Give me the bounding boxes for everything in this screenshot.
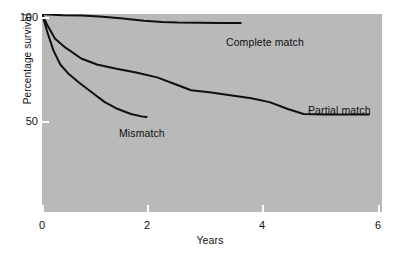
x-tick-mark-0 bbox=[42, 205, 44, 212]
y-tick-mark-100 bbox=[42, 17, 49, 19]
survival-chart-figure: Complete match Partial match Mismatch Pe… bbox=[0, 0, 394, 255]
plot-area: Complete match Partial match Mismatch bbox=[42, 14, 382, 212]
y-axis-tick-label-50: 50 bbox=[4, 116, 38, 127]
series-label-complete-match: Complete match bbox=[226, 36, 304, 48]
x-tick-mark-6 bbox=[378, 205, 380, 212]
series-line-complete-match bbox=[42, 14, 241, 23]
x-axis-tick-label-4: 4 bbox=[250, 220, 274, 231]
series-line-mismatch bbox=[42, 14, 147, 117]
x-axis-tick-label-6: 6 bbox=[366, 220, 390, 231]
series-label-mismatch: Mismatch bbox=[119, 127, 165, 139]
y-axis-tick-label-100: 100 bbox=[4, 12, 38, 23]
series-line-partial-match bbox=[42, 14, 369, 115]
x-tick-mark-4 bbox=[262, 205, 264, 212]
x-axis-tick-label-2: 2 bbox=[135, 220, 159, 231]
x-tick-mark-2 bbox=[147, 205, 149, 212]
x-axis-tick-label-0: 0 bbox=[30, 220, 54, 231]
y-tick-mark-50 bbox=[42, 121, 49, 123]
x-axis-title: Years bbox=[150, 234, 270, 246]
series-label-partial-match: Partial match bbox=[308, 104, 371, 116]
